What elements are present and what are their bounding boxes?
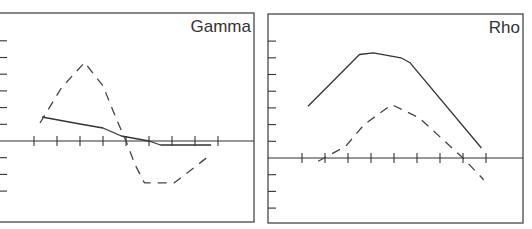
rho-dashed-line: [318, 105, 484, 180]
rho-solid-line: [308, 53, 481, 148]
rho-panel: Rho: [268, 14, 523, 223]
gamma-y-ticks: [0, 41, 7, 191]
rho-panel-title: Rho: [489, 18, 520, 37]
rho-y-ticks: [268, 41, 276, 208]
gamma-dashed-line: [40, 63, 211, 183]
rho-plot-frame: [268, 14, 523, 223]
gamma-plot-frame: [0, 13, 254, 222]
chart-figure: Gamma Rho: [0, 0, 532, 229]
gamma-panel-title: Gamma: [191, 17, 252, 36]
gamma-panel: Gamma: [0, 13, 254, 222]
